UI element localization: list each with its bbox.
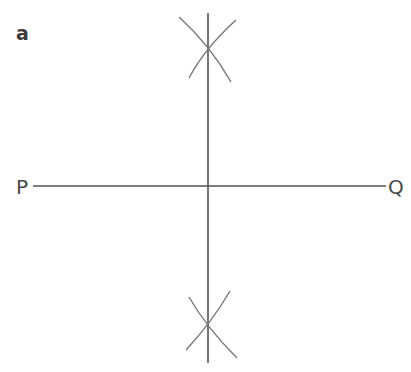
top-arc-from-p [179, 17, 231, 82]
diagram-canvas: a P Q [0, 0, 411, 372]
top-arc-from-q [189, 20, 236, 78]
construction-svg [0, 0, 411, 372]
bottom-arc-from-p [189, 297, 237, 358]
